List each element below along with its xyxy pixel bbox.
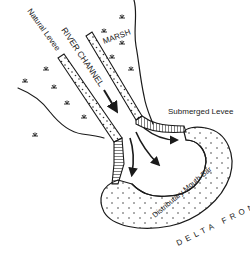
- marsh-grass-icon: [64, 101, 70, 105]
- marsh-grass-icon: [32, 133, 38, 137]
- marsh-grass-icon: [81, 115, 87, 119]
- marsh-grass-icon: [101, 29, 107, 33]
- label-natural-levee: Natural Levee: [25, 7, 62, 53]
- marsh-grass-icon: [128, 67, 134, 71]
- flow-arrow-southeast: [136, 132, 158, 164]
- delta-diagram: Natural Levee RIVER CHANNEL MARSH Submer…: [0, 0, 250, 254]
- submerged-levee-right: [136, 116, 186, 133]
- flow-arrow-south: [130, 138, 133, 174]
- submerged-levee-left: [112, 138, 124, 184]
- marsh-grass-icon: [109, 55, 115, 59]
- flow-arrow-channel: [104, 90, 116, 110]
- marsh-grass-icon: [119, 41, 125, 45]
- marsh-grass-icon: [119, 15, 125, 19]
- marsh-shoreline-right: [134, 0, 153, 124]
- marsh-grass-icon: [43, 67, 49, 71]
- label-submerged-levee: Submerged Levee: [168, 107, 234, 116]
- label-marsh: MARSH: [102, 27, 132, 45]
- marsh-grass-icon: [22, 79, 28, 83]
- marsh-grass-icon: [51, 85, 57, 89]
